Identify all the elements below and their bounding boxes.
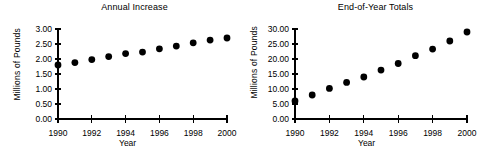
data-point: [173, 43, 180, 50]
data-point: [343, 79, 350, 86]
data-point: [309, 92, 316, 99]
x-tick-label: 1994: [116, 128, 135, 138]
y-tick-label: 2.50: [18, 39, 52, 49]
data-point: [326, 85, 333, 92]
figure-container: Annual Increase Millions of Pounds Year …: [0, 0, 490, 158]
data-point: [72, 59, 79, 66]
data-point: [360, 74, 367, 81]
data-point: [224, 35, 231, 42]
chart-panel-end-of-year-totals: End-of-Year Totals Millions of Pounds Ye…: [245, 0, 490, 158]
data-point: [55, 62, 62, 69]
y-tick-label: 1.50: [18, 69, 52, 79]
data-point: [156, 45, 163, 52]
data-point: [446, 38, 453, 45]
data-point: [395, 60, 402, 67]
data-point: [412, 52, 419, 59]
y-tick-label: 0.00: [255, 114, 289, 124]
x-tick-label: 1996: [389, 128, 408, 138]
x-tick-label: 1990: [49, 128, 68, 138]
x-tick-label: 1998: [423, 128, 442, 138]
y-tick-label: 20.00: [255, 54, 289, 64]
data-series: [55, 35, 231, 69]
data-point: [292, 98, 299, 105]
x-tick-label: 1996: [150, 128, 169, 138]
y-tick-label: 3.00: [18, 24, 52, 34]
data-point: [105, 53, 112, 60]
y-tick-label: 10.00: [255, 84, 289, 94]
data-point: [429, 46, 436, 53]
data-series: [292, 29, 471, 105]
y-tick-label: 0.50: [18, 99, 52, 109]
y-tick-label: 0.00: [18, 114, 52, 124]
data-point: [88, 56, 95, 63]
data-point: [139, 49, 146, 56]
y-tick-label: 15.00: [255, 69, 289, 79]
x-tick-label: 1990: [286, 128, 305, 138]
y-tick-label: 5.00: [255, 99, 289, 109]
x-tick-label: 1994: [354, 128, 373, 138]
chart-panel-annual-increase: Annual Increase Millions of Pounds Year …: [0, 0, 245, 158]
data-point: [464, 29, 471, 36]
y-tick-label: 25.00: [255, 39, 289, 49]
x-tick-label: 1998: [184, 128, 203, 138]
x-tick-label: 1992: [82, 128, 101, 138]
data-point: [207, 37, 214, 44]
y-tick-label: 30.00: [255, 24, 289, 34]
data-point: [378, 67, 385, 74]
y-tick-label: 2.00: [18, 54, 52, 64]
data-point: [190, 39, 197, 46]
x-tick-label: 2000: [218, 128, 237, 138]
x-tick-label: 2000: [458, 128, 477, 138]
y-tick-label: 1.00: [18, 84, 52, 94]
data-point: [122, 50, 129, 57]
x-tick-label: 1992: [320, 128, 339, 138]
